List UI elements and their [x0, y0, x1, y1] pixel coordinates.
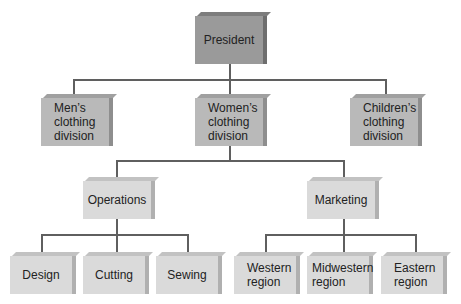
connector-cutting-up	[116, 234, 118, 254]
connector-design-up	[41, 234, 43, 254]
node-cutting: Cutting	[83, 252, 149, 294]
node-womens-clothing-division: Women’s clothing division	[195, 94, 267, 146]
node-operations: Operations	[83, 177, 155, 219]
node-label: Midwestern region	[312, 261, 373, 289]
node-eastern-region: Eastern region	[381, 252, 447, 294]
node-marketing: Marketing	[307, 177, 379, 219]
connector-marketing-down	[343, 218, 345, 235]
connector-level2-horizontal	[116, 160, 345, 162]
node-label: Design	[22, 268, 59, 282]
node-label: Eastern region	[394, 261, 435, 289]
node-label: Western region	[247, 261, 291, 289]
connector-midwestern-up	[343, 234, 345, 254]
node-sewing: Sewing	[156, 252, 222, 294]
node-midwestern-region: Midwestern region	[307, 252, 373, 294]
connector-western-up	[265, 234, 267, 254]
node-label: Cutting	[95, 268, 133, 282]
connector-operations-horizontal	[41, 234, 189, 236]
connector-operations-down	[116, 218, 118, 235]
node-western-region: Western region	[234, 252, 300, 294]
node-label: Sewing	[167, 268, 206, 282]
node-label: Women’s clothing division	[208, 101, 258, 143]
connector-eastern-up	[415, 234, 417, 254]
node-label: Men’s clothing division	[54, 101, 95, 143]
node-mens-clothing-division: Men’s clothing division	[41, 94, 113, 146]
node-label: Marketing	[315, 193, 368, 207]
node-childrens-clothing-division: Children’s clothing division	[350, 94, 422, 146]
node-label: President	[204, 33, 255, 47]
connector-sewing-up	[187, 234, 189, 254]
node-label: Operations	[88, 193, 147, 207]
connector-marketing-horizontal	[265, 234, 417, 236]
node-label: Children’s clothing division	[363, 101, 416, 143]
node-design: Design	[10, 252, 76, 294]
node-president: President	[195, 12, 267, 64]
